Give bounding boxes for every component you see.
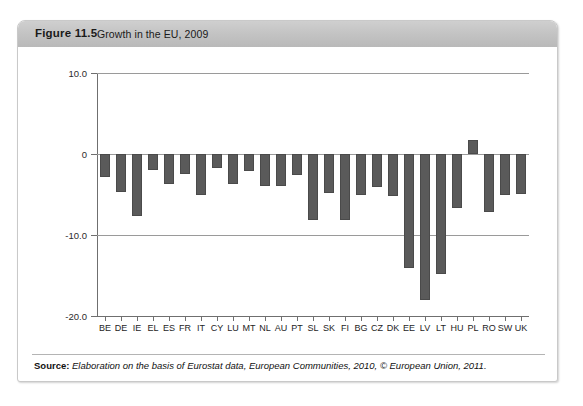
x-tick-mark [409,316,410,321]
bar-BE [100,154,110,177]
x-tick-mark [249,316,250,321]
bar-IE [132,154,142,216]
source-divider [32,354,545,355]
source-note: Source: Elaboration on the basis of Euro… [34,360,487,371]
figure-header-band: Figure 11.5 Growth in the EU, 2009 [18,21,557,47]
bar-IT [196,154,206,195]
x-axis-label-SL: SL [307,323,318,333]
x-tick-mark [473,316,474,321]
source-text: Elaboration on the basis of Eurostat dat… [69,360,486,371]
x-axis-label-RO: RO [482,323,496,333]
x-tick-mark [153,316,154,321]
x-axis-label-SK: SK [323,323,335,333]
x-tick-mark [281,316,282,321]
bar-HU [452,154,462,208]
x-axis-label-CY: CY [211,323,224,333]
chart-container: BEDEIEELESFRITCYLUMTNLAUPTSLSKFIBGCZDKEE… [34,59,542,339]
source-label: Source: [34,360,69,371]
chart-plot-frame: BEDEIEELESFRITCYLUMTNLAUPTSLSKFIBGCZDKEE… [34,59,542,339]
bar-DE [116,154,126,192]
x-tick-mark [361,316,362,321]
bar-CZ [372,154,382,187]
x-tick-mark [313,316,314,321]
x-tick-mark [105,316,106,321]
y-axis-label: -20.0 [34,311,87,322]
y-axis-label: 0 [34,149,87,160]
x-axis-label-EE: EE [403,323,415,333]
x-tick-mark [185,316,186,321]
bar-PT [292,154,302,175]
x-axis-label-BE: BE [99,323,111,333]
x-axis-label-NL: NL [259,323,271,333]
x-tick-mark [345,316,346,321]
bar-MT [244,154,254,171]
bar-SW [500,154,510,195]
bar-SL [308,154,318,220]
bar-AU [276,154,286,186]
bar-RO [484,154,494,212]
x-tick-mark [329,316,330,321]
x-tick-mark [121,316,122,321]
x-axis-label-AU: AU [275,323,288,333]
x-axis-label-PL: PL [467,323,478,333]
x-axis-label-DE: DE [115,323,128,333]
x-tick-mark [425,316,426,321]
bar-LT [436,154,446,274]
x-tick-mark [169,316,170,321]
x-axis-label-FR: FR [179,323,191,333]
x-tick-mark [297,316,298,321]
bar-BG [356,154,366,195]
bar-EL [148,154,158,170]
x-axis-label-BG: BG [354,323,367,333]
x-axis-label-LU: LU [227,323,239,333]
y-axis-label: -10.0 [34,230,87,241]
x-axis-label-IE: IE [133,323,142,333]
x-tick-mark [233,316,234,321]
x-axis-label-ES: ES [163,323,175,333]
bar-FR [180,154,190,174]
x-tick-mark [521,316,522,321]
x-axis-label-LT: LT [436,323,446,333]
x-axis-label-FI: FI [341,323,349,333]
bar-SK [324,154,334,193]
x-tick-mark [137,316,138,321]
x-tick-mark [457,316,458,321]
x-tick-mark [201,316,202,321]
bar-UK [516,154,526,194]
bar-DK [388,154,398,196]
x-axis-label-DK: DK [387,323,400,333]
x-axis-label-SW: SW [498,323,513,333]
x-tick-mark [489,316,490,321]
bar-ES [164,154,174,184]
x-tick-mark [217,316,218,321]
bar-LU [228,154,238,184]
bar-EE [404,154,414,268]
figure-number: Figure 11.5 [35,27,97,39]
bar-NL [260,154,270,186]
x-tick-mark [377,316,378,321]
bar-PL [468,140,478,154]
bar-series [97,73,529,316]
x-tick-mark [393,316,394,321]
bar-LV [420,154,430,300]
bar-FI [340,154,350,220]
x-axis-label-CZ: CZ [371,323,383,333]
x-axis-label-PT: PT [291,323,303,333]
chart-plot-area [97,73,529,316]
x-axis-label-LV: LV [420,323,430,333]
x-axis-label-HU: HU [451,323,464,333]
x-tick-mark [441,316,442,321]
x-axis-label-UK: UK [515,323,528,333]
x-tick-mark [265,316,266,321]
x-axis-label-MT: MT [243,323,256,333]
y-axis-label: 10.0 [34,68,87,79]
bar-CY [212,154,222,168]
figure-title: Growth in the EU, 2009 [97,28,208,40]
x-axis-label-EL: EL [147,323,158,333]
x-tick-mark [505,316,506,321]
figure-card: Figure 11.5 Growth in the EU, 2009 BEDEI… [17,20,558,382]
x-axis-label-IT: IT [197,323,205,333]
